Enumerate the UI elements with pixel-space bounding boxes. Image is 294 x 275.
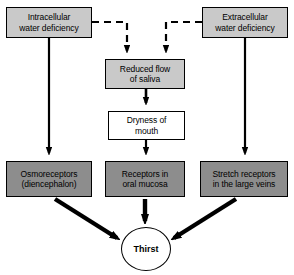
thirst-flow-diagram: Intracellular water deficiency Extracell… bbox=[0, 0, 294, 275]
node-intracellular-water-deficiency: Intracellular water deficiency bbox=[6, 7, 92, 38]
node-intracellular-line-2: water deficiency bbox=[19, 23, 78, 33]
node-receptors-in-oral-mucosa: Receptors in oral mucosa bbox=[105, 161, 185, 197]
node-osmoreceptors-line-1: Osmoreceptors bbox=[21, 169, 78, 179]
node-dryness-line-2: mouth bbox=[127, 126, 167, 136]
node-oral-receptors-line-1: Receptors in bbox=[122, 169, 169, 179]
node-extracellular-water-deficiency: Extracellular water deficiency bbox=[202, 7, 288, 38]
node-saliva-label: Reduced flow of saliva bbox=[120, 64, 170, 84]
node-osmoreceptors: Osmoreceptors (diencephalon) bbox=[6, 161, 92, 197]
node-saliva-line-2: of saliva bbox=[120, 74, 170, 84]
node-intracellular-label: Intracellular water deficiency bbox=[19, 12, 78, 32]
node-osmoreceptors-label: Osmoreceptors (diencephalon) bbox=[21, 169, 78, 189]
edge-extracellular-to-saliva bbox=[166, 22, 202, 51]
node-saliva-line-1: Reduced flow bbox=[120, 64, 170, 74]
node-dryness-label: Dryness of mouth bbox=[127, 115, 167, 135]
node-reduced-flow-of-saliva: Reduced flow of saliva bbox=[105, 59, 185, 89]
node-stretch-receptors-line-1: Stretch receptors bbox=[212, 169, 275, 179]
node-stretch-receptors-line-2: in the large veins bbox=[212, 179, 275, 189]
node-dryness-line-1: Dryness of bbox=[127, 115, 167, 125]
node-osmoreceptors-line-2: (diencephalon) bbox=[21, 179, 78, 189]
edge-intracellular-to-saliva bbox=[92, 22, 127, 51]
node-thirst: Thirst bbox=[121, 227, 171, 271]
node-thirst-label: Thirst bbox=[133, 244, 158, 254]
edge-osmoreceptors-to-thirst bbox=[55, 199, 117, 238]
node-oral-receptors-label: Receptors in oral mucosa bbox=[122, 169, 169, 189]
node-extracellular-label: Extracellular water deficiency bbox=[215, 12, 274, 32]
node-stretch-receptors-large-veins: Stretch receptors in the large veins bbox=[200, 161, 288, 197]
node-dryness-of-mouth: Dryness of mouth bbox=[108, 111, 185, 140]
node-intracellular-line-1: Intracellular bbox=[19, 12, 78, 22]
edge-stretch-receptors-to-thirst bbox=[174, 199, 236, 238]
node-oral-receptors-line-2: oral mucosa bbox=[122, 179, 169, 189]
node-extracellular-line-1: Extracellular bbox=[215, 12, 274, 22]
node-extracellular-line-2: water deficiency bbox=[215, 23, 274, 33]
node-stretch-receptors-label: Stretch receptors in the large veins bbox=[212, 169, 275, 189]
